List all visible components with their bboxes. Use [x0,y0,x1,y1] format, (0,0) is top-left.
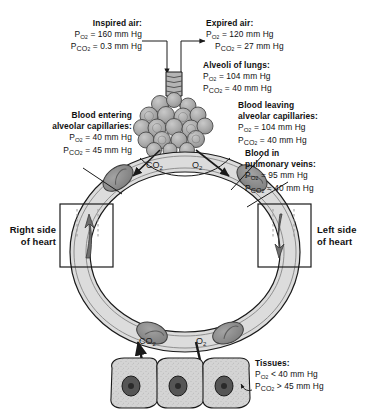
blood-entering-label: Blood entering alveolar capillaries: PO2… [0,110,132,157]
inspired-air-label: Inspired air: PO2 = 160 mm Hg PCO2 = 0.3… [6,18,142,54]
blood-entering-heading-2: alveolar capillaries: [0,121,132,132]
blood-entering-po2: PO2 = 40 mm Hg [0,132,132,144]
left-heart-line-2: of heart [317,236,371,248]
pulmonary-veins-label: Blood in pulmonary veins: PO2 = 95 mm Hg… [245,148,371,195]
blood-leaving-heading-2: alveolar capillaries: [238,111,371,122]
alveoli-po2: PO2 = 104 mm Hg [203,71,353,83]
inspired-air-po2: PO2 = 160 mm Hg [6,29,142,41]
right-heart-label: Right side of heart [0,224,56,248]
blood-leaving-pco2: PCO2 = 40 mm Hg [238,135,371,147]
blood-leaving-label: Blood leaving alveolar capillaries: PO2 … [238,100,371,147]
inspired-air-pco2: PCO2 = 0.3 mm Hg [6,41,142,53]
expired-air-po2: PO2 = 120 mm Hg [206,29,346,41]
alveoli-heading: Alveoli of lungs: [203,60,353,71]
o2-lung-label: O2 [192,160,202,170]
tissues-heading: Tissues: [255,358,371,369]
tissues-label: Tissues: PO2 < 40 mm Hg PCO2 > 45 mm Hg [255,358,371,394]
left-heart-label: Left side of heart [317,224,371,248]
left-heart-line-1: Left side [317,224,371,236]
expired-air-heading: Expired air: [206,18,346,29]
expired-air-pco2: PCO2 = 27 mm Hg [206,41,346,53]
blood-leaving-heading-1: Blood leaving [238,100,371,111]
expired-air-label: Expired air: PO2 = 120 mm Hg PCO2 = 27 m… [206,18,346,54]
blood-entering-heading-1: Blood entering [0,110,132,121]
gas-exchange-diagram: Inspired air: PO2 = 160 mm Hg PCO2 = 0.3… [0,0,371,416]
pulmonary-veins-heading-1: Blood in [245,148,371,159]
alveoli-label: Alveoli of lungs: PO2 = 104 mm Hg PCO2 =… [203,60,353,96]
co2-tissue-label: CO2 [139,336,156,346]
tissues-po2: PO2 < 40 mm Hg [255,369,371,381]
inspired-air-heading: Inspired air: [6,18,142,29]
pulmonary-veins-pco2: PCO2 = 40 mm Hg [245,183,371,195]
blood-leaving-po2: PO2 = 104 mm Hg [238,122,371,134]
right-heart-line-2: of heart [0,236,56,248]
o2-tissue-label: O2 [196,336,206,346]
co2-lung-label: CO2 [146,160,163,170]
alveoli-pco2: PCO2 = 40 mm Hg [203,83,353,95]
right-heart-line-1: Right side [0,224,56,236]
blood-entering-pco2: PCO2 = 45 mm Hg [0,145,132,157]
pulmonary-veins-po2: PO2 = 95 mm Hg [245,170,371,182]
tissues-pco2: PCO2 > 45 mm Hg [255,381,371,393]
pulmonary-veins-heading-2: pulmonary veins: [245,159,371,170]
